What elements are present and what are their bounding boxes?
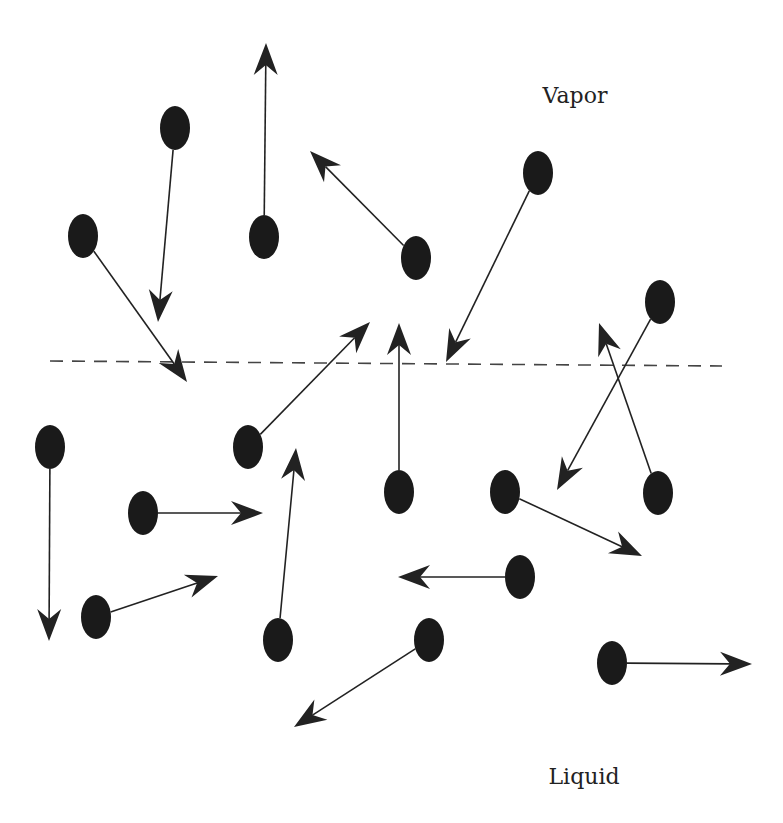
velocity-arrow-shaft [325,167,403,246]
velocity-arrow-shaft [260,338,354,435]
molecule-dot [490,470,520,514]
velocity-arrow-shaft [111,583,198,612]
molecule-dot [35,425,65,469]
velocity-arrow-shaft [627,663,730,664]
arrowhead-icon [159,349,187,382]
arrowhead-icon [446,328,471,362]
velocity-arrow-shaft [456,191,530,342]
arrowhead-icon [608,532,642,556]
molecule-liquid [81,575,218,639]
molecule-dot [128,491,158,535]
molecule-dot [401,236,431,280]
molecule-dot [263,618,293,662]
molecule-dot [505,555,535,599]
molecule-vapor [249,43,279,259]
interface-dashed-line [50,361,722,366]
molecule-liquid [384,323,414,514]
velocity-arrow-shaft [160,150,173,300]
velocity-arrow-shaft [312,649,415,715]
velocity-arrow-shaft [264,65,266,215]
molecule-liquid [598,323,673,515]
molecule-liquid [294,618,444,727]
molecule-liquid [490,470,642,556]
molecule-dot [384,470,414,514]
velocity-arrow-shaft [280,470,294,618]
vapor-liquid-interface-diagram [0,0,783,823]
molecules-layer [35,43,752,727]
molecule-liquid [263,448,305,662]
liquid-label: Liquid [548,764,619,789]
molecule-liquid [128,491,263,535]
velocity-arrow-shaft [49,469,50,619]
molecule-dot [68,214,98,258]
molecule-vapor [149,106,190,322]
molecule-dot [249,215,279,259]
velocity-arrow-shaft [606,344,651,474]
molecule-liquid [597,641,752,685]
vapor-label: Vapor [543,83,608,108]
molecule-liquid [398,555,535,599]
molecule-dot [81,595,111,639]
molecule-dot [160,106,190,150]
arrowhead-icon [294,700,327,727]
molecule-vapor [310,151,431,280]
velocity-arrow-shaft [519,499,622,547]
molecule-vapor [446,151,553,362]
molecule-liquid [35,425,65,641]
molecule-dot [523,151,553,195]
molecule-dot [233,425,263,469]
molecule-dot [597,641,627,685]
molecule-vapor [557,280,675,490]
molecule-liquid [233,322,370,469]
molecule-dot [643,471,673,515]
molecule-dot [414,618,444,662]
molecule-dot [645,280,675,324]
arrowhead-icon [557,456,583,490]
